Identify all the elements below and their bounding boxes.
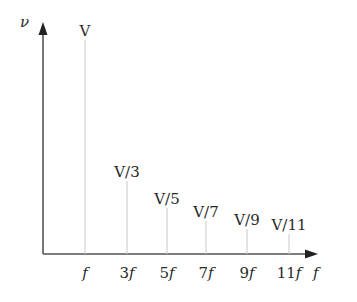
- y-axis-arrow-icon: [39, 22, 48, 35]
- y-axis-label: ν: [20, 13, 29, 31]
- tick-label: 3f: [119, 264, 137, 282]
- spectrum-chart: ν f f3f5f7f9f11f VV/3V/5V/7V/9V/11: [0, 0, 357, 302]
- value-labels-group: VV/3V/5V/7V/9V/11: [79, 22, 307, 234]
- value-label: V/3: [113, 163, 139, 181]
- tick-labels-group: f3f5f7f9f11f: [81, 264, 304, 282]
- x-axis-label: f: [312, 264, 321, 282]
- value-label: V/11: [271, 216, 307, 234]
- tick-label: 7f: [198, 264, 216, 282]
- value-label: V: [79, 22, 92, 40]
- value-label: V/9: [233, 211, 259, 229]
- value-label: V/7: [192, 203, 218, 221]
- x-axis-arrow-icon: [305, 250, 318, 259]
- tick-label: f: [81, 264, 90, 282]
- tick-label: 9f: [239, 264, 257, 282]
- value-label: V/5: [153, 190, 179, 208]
- tick-label: 11f: [277, 264, 304, 282]
- tick-label: 5f: [159, 264, 177, 282]
